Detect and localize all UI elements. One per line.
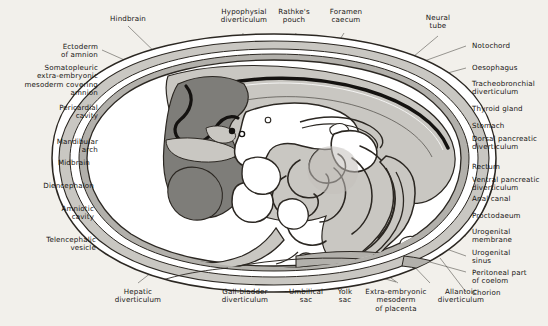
label-extra-embryonic-mesoderm-of-placenta: Extra-embryonic mesoderm of placenta [358, 288, 434, 313]
label-notochord: Notochord [472, 42, 548, 50]
label-urogenital-membrane: Urogenital membrane [472, 228, 548, 245]
label-urogenital-sinus: Urogenital sinus [472, 249, 548, 266]
label-dorsal-pancreatic-diverticulum: Dorsal pancreatic diverticulum [472, 135, 548, 152]
label-midbrain: Midbrain [6, 159, 90, 167]
label-amniotic-cavity: Amniotic cavity [6, 205, 94, 222]
label-pericardial-cavity: Pericardial cavity [6, 104, 98, 121]
label-proctodaeum: Proctodaeum [472, 212, 548, 220]
label-neural-tube: Neural tube [412, 14, 464, 31]
label-yolk-sac: Yolk sac [330, 288, 360, 305]
label-stomach: Stomach [472, 122, 548, 130]
label-umbilical-sac: Umbilical sac [282, 288, 330, 305]
label-mandibular-arch: Mandibular arch [6, 138, 98, 155]
label-foramen-caecum: Foramen caecum [315, 8, 377, 25]
label-ectoderm-of-amnion: Ectoderm of amnion [6, 43, 98, 60]
label-tracheobronchial-diverticulum: Tracheobronchial diverticulum [472, 80, 548, 97]
label-rectum: Rectum [472, 163, 548, 171]
label-hepatic-diverticulum: Hepatic diverticulum [100, 288, 176, 305]
label-diencephalon: Diencephalon [2, 182, 94, 190]
label-somatopleuric-mesoderm: Somatopleuric extra-embryonic mesoderm c… [2, 64, 98, 98]
label-telencephalic-vesicle: Telencephalic vesicle [4, 236, 96, 253]
label-thyroid-gland: Thyroid gland [472, 105, 548, 113]
embryo-diagram: Hindbrain Hypophysial diverticulum Rathk… [0, 0, 548, 326]
label-gall-bladder-diverticulum: Gall-bladder diverticulum [208, 288, 282, 305]
label-peritoneal-part-of-coelom: Peritoneal part of coelom [472, 269, 548, 286]
label-anal-canal: Anal canal [472, 195, 548, 203]
label-hindbrain: Hindbrain [92, 15, 164, 23]
label-allantoic-diverticulum: Allantoic diverticulum [430, 288, 492, 305]
label-ventral-pancreatic-diverticulum: Ventral pancreatic diverticulum [472, 176, 548, 193]
label-oesophagus: Oesophagus [472, 64, 548, 72]
